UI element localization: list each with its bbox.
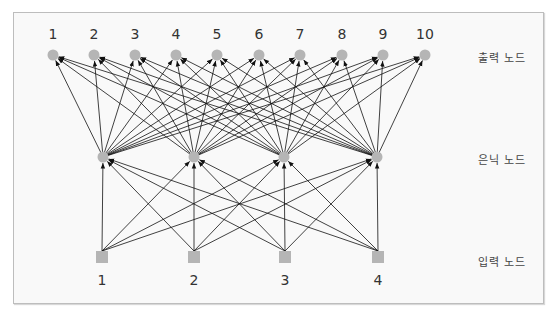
input-layer-label: 입력 노드 [478,253,527,269]
hidden-layer-label: 은닉 노드 [478,151,527,167]
connection-arrow [102,159,371,251]
output-node-number: 5 [213,26,222,42]
connection-arrow [58,57,284,157]
connection-arrow [194,161,280,251]
input-node-number: 4 [374,272,383,288]
connection-arrow [194,160,372,251]
output-node [295,50,306,61]
output-node-number: 2 [90,26,99,42]
connection-arrow [377,163,378,251]
connection-arrow [198,161,285,251]
output-node [171,50,182,61]
output-node [378,50,389,61]
network-diagram [0,0,552,311]
hidden-node [279,152,290,163]
connection-arrow [288,161,378,251]
connection-arrow [102,160,279,251]
output-node-number: 4 [172,26,181,42]
output-node [130,50,141,61]
connection-arrow [194,60,256,157]
output-node-number: 7 [296,26,305,42]
connection-arrow [59,57,377,157]
connection-arrow [285,161,373,251]
output-node-number: 1 [49,26,58,42]
output-node-number: 9 [379,26,388,42]
connection-arrow [141,57,377,157]
connection-arrow [180,59,284,157]
connection-arrow [102,161,190,251]
connection-arrow [284,59,420,157]
output-node [254,50,265,61]
connection-arrow [284,61,299,157]
input-node [188,251,200,263]
output-node [48,50,59,61]
hidden-node [189,152,200,163]
output-node [337,50,348,61]
output-node [420,50,431,61]
output-layer-label: 출력 노드 [478,49,527,65]
connection-arrow [377,60,422,157]
input-node-number: 1 [98,272,107,288]
output-node-number: 8 [338,26,347,42]
input-node-number: 2 [190,272,199,288]
connection-arrow [199,160,378,251]
connection-arrow [304,60,377,157]
output-node-number: 3 [131,26,140,42]
output-node [89,50,100,61]
connection-arrow [194,58,378,157]
connection-arrow [284,163,285,251]
connection-arrow [194,57,420,157]
connection-arrow [220,60,284,157]
hidden-node [98,152,109,163]
output-node-number: 10 [416,26,434,42]
connection-arrow [108,160,285,251]
connection-arrow [102,163,103,251]
output-node-number: 6 [255,26,264,42]
connection-arrow [107,161,194,251]
input-node [96,251,108,263]
input-node [279,251,291,263]
output-node [212,50,223,61]
input-node-number: 3 [281,272,290,288]
hidden-node [372,152,383,163]
input-node [372,251,384,263]
